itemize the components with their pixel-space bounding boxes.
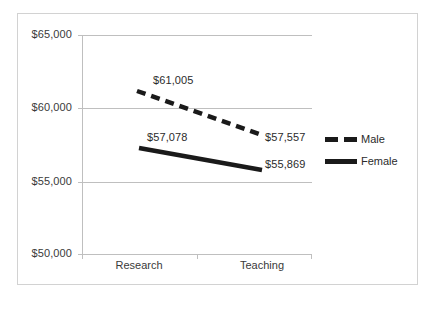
- y-axis-label-55000: $55,000: [32, 175, 72, 187]
- y-tick-55000: [78, 182, 82, 183]
- x-tick-end: [311, 255, 312, 259]
- y-axis-labels: $65,000 $60,000 $55,000 $50,000: [10, 13, 72, 285]
- point-label-male-teaching: $57,557: [265, 131, 305, 143]
- point-label-male-research: $61,005: [153, 74, 193, 86]
- legend-label-female: Female: [361, 155, 398, 167]
- x-tick-mid: [197, 255, 198, 259]
- chart-legend: Male Female: [325, 128, 413, 172]
- gridline-60000: [82, 108, 312, 109]
- x-axis-label-research: Research: [115, 259, 162, 271]
- x-axis-label-teaching: Teaching: [240, 259, 284, 271]
- y-tick-60000: [78, 108, 82, 109]
- y-tick-65000: [78, 35, 82, 36]
- legend-label-male: Male: [361, 133, 385, 145]
- legend-item-male[interactable]: Male: [325, 128, 413, 150]
- plot-area: [82, 35, 312, 255]
- y-axis-label-65000: $65,000: [32, 28, 72, 40]
- legend-item-female[interactable]: Female: [325, 150, 413, 172]
- legend-swatch-solid-icon: [325, 159, 357, 164]
- gridline-65000: [82, 35, 312, 36]
- point-label-female-research: $57,078: [147, 131, 187, 143]
- y-axis-label-60000: $60,000: [32, 101, 72, 113]
- gridline-55000: [82, 182, 312, 183]
- y-axis-line: [82, 35, 83, 255]
- y-axis-label-50000: $50,000: [32, 247, 72, 259]
- x-tick-start: [82, 255, 83, 259]
- legend-swatch-dashed-icon: [325, 137, 357, 142]
- point-label-female-teaching: $55,869: [265, 158, 305, 170]
